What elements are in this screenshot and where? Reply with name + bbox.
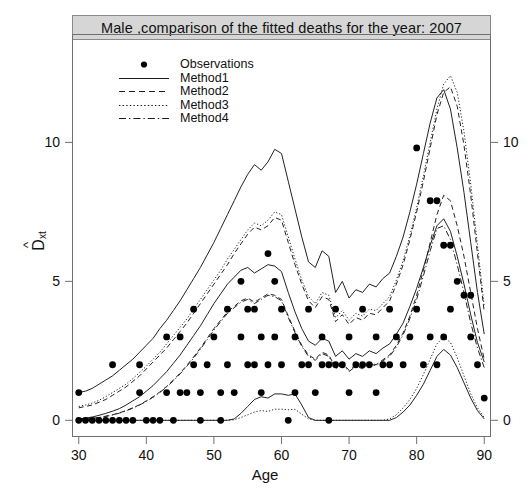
dashdot-line-icon [118, 112, 170, 125]
observation-point [224, 361, 231, 368]
observation-point [359, 361, 366, 368]
legend-item-method2: Method2 [118, 85, 254, 99]
observation-point [197, 389, 204, 396]
observation-point [217, 417, 224, 424]
observation-point [461, 292, 468, 299]
observation-point [467, 334, 474, 341]
observation-point [400, 361, 407, 368]
observation-point [163, 389, 170, 396]
observation-point [75, 417, 82, 424]
svg-text:70: 70 [341, 447, 357, 463]
observation-point [285, 417, 292, 424]
observation-point [278, 361, 285, 368]
plot-canvas: 3040506070809005100510 [0, 0, 530, 499]
observation-point [75, 389, 82, 396]
observation-points [75, 145, 487, 424]
svg-text:0: 0 [52, 412, 60, 428]
observation-point [89, 417, 96, 424]
legend-item-method1: Method1 [118, 72, 254, 86]
observation-point [82, 417, 89, 424]
observation-point [258, 334, 265, 341]
observation-point [298, 361, 305, 368]
y-axis-label: ^Dxt [30, 196, 48, 286]
observation-point [305, 361, 312, 368]
observation-point [183, 389, 190, 396]
observation-point [265, 361, 272, 368]
observation-point [366, 361, 373, 368]
observation-point [427, 197, 434, 204]
svg-text:80: 80 [409, 447, 425, 463]
observation-point [393, 334, 400, 341]
dotted-line-icon [118, 99, 170, 112]
observation-point [474, 361, 481, 368]
observation-point [373, 389, 380, 396]
series-method3-lower [79, 337, 484, 420]
observation-point [292, 334, 299, 341]
observation-point [116, 417, 123, 424]
observation-point [190, 306, 197, 313]
observation-point [312, 389, 319, 396]
observation-point [278, 306, 285, 313]
observation-point [244, 361, 251, 368]
observation-point [163, 334, 170, 341]
x-axis-label: Age [0, 466, 530, 483]
observation-point [386, 306, 393, 313]
observation-point [136, 389, 143, 396]
observation-point [413, 145, 420, 152]
observation-point [440, 334, 447, 341]
observation-point [136, 361, 143, 368]
hat-accent-icon: ^ [21, 239, 34, 251]
svg-text:10: 10 [44, 134, 60, 150]
observation-point [150, 417, 157, 424]
observation-point [346, 389, 353, 396]
observation-point [305, 306, 312, 313]
observation-point [123, 417, 130, 424]
observation-point [177, 334, 184, 341]
observation-point [197, 417, 204, 424]
observation-point [447, 306, 454, 313]
observation-point [170, 417, 177, 424]
observation-point [359, 306, 366, 313]
observation-point [244, 306, 251, 313]
observation-point [332, 306, 339, 313]
observation-point [231, 389, 238, 396]
observation-point [258, 389, 265, 396]
observation-point [434, 197, 441, 204]
observation-point [251, 306, 258, 313]
observation-point [156, 417, 163, 424]
svg-text:60: 60 [274, 447, 290, 463]
observation-point [211, 334, 218, 341]
legend-item-method3: Method3 [118, 99, 254, 113]
svg-text:0: 0 [503, 412, 511, 428]
dashed-line-icon [118, 85, 170, 98]
solid-line-icon [118, 72, 170, 85]
observation-point [325, 361, 332, 368]
observation-point [129, 417, 136, 424]
series-method2-upper [79, 87, 484, 408]
observation-point [339, 361, 346, 368]
observation-point [447, 242, 454, 249]
observation-point [102, 417, 109, 424]
y-axis-label-subscript: xt [37, 231, 48, 239]
legend-label-method1: Method1 [180, 72, 229, 85]
observation-point [352, 361, 359, 368]
svg-text:50: 50 [206, 447, 222, 463]
observation-point [217, 389, 224, 396]
svg-text:5: 5 [52, 273, 60, 289]
observation-point [224, 306, 231, 313]
y-axis-label-symbol: ^D [30, 239, 48, 251]
observation-point [420, 361, 427, 368]
observation-point [109, 361, 116, 368]
svg-text:10: 10 [503, 134, 519, 150]
observation-point [454, 278, 461, 285]
observation-point [143, 417, 150, 424]
observation-point [481, 395, 488, 402]
series-method1-fit [79, 219, 484, 419]
observation-point [332, 361, 339, 368]
svg-text:5: 5 [503, 273, 511, 289]
series-method1-upper [79, 90, 484, 393]
legend-label-method4: Method4 [180, 112, 229, 125]
chart-legend: Observations Method1 Method2 Method3 Met… [118, 58, 254, 126]
svg-text:90: 90 [476, 447, 492, 463]
observation-point [440, 242, 447, 249]
